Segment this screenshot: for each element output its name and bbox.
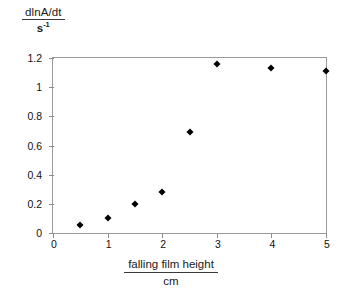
data-point-marker	[268, 65, 275, 72]
x-axis-label: falling film height cm	[0, 258, 342, 289]
y-axis-tick-label: 0	[36, 227, 42, 239]
y-axis-label-numerator: dlnA/dt	[22, 6, 65, 20]
y-axis-tick-label: 1.2	[27, 52, 42, 64]
y-axis-tick-label: 0.2	[27, 198, 42, 210]
y-axis-tick: 1	[49, 87, 54, 88]
x-axis-tick-label: 5	[324, 238, 330, 250]
data-point-marker	[104, 214, 111, 221]
data-point-marker	[322, 68, 329, 75]
plot-frame: 00.20.40.60.811.2012345	[52, 57, 327, 234]
data-point-marker	[159, 189, 166, 196]
data-point-marker	[131, 200, 138, 207]
y-axis-tick: 1.2	[49, 58, 54, 59]
y-axis-tick: 0.6	[49, 146, 54, 147]
x-axis-tick: 3	[217, 233, 218, 238]
y-axis-tick-label: 0.8	[27, 110, 42, 122]
x-axis-tick: 2	[162, 233, 163, 238]
y-axis-tick-label: 0.4	[27, 169, 42, 181]
x-axis-tick: 0	[53, 233, 54, 238]
x-axis-tick-label: 3	[215, 238, 221, 250]
x-axis-tick-label: 1	[106, 238, 112, 250]
y-axis-label: dlnA/dt s-1	[22, 6, 65, 35]
x-axis-label-numerator: falling film height	[124, 258, 218, 273]
y-axis-tick: 0.8	[49, 116, 54, 117]
y-axis-tick: 0.2	[49, 204, 54, 205]
x-axis-tick: 5	[326, 233, 327, 238]
x-axis-tick: 4	[271, 233, 272, 238]
y-axis-unit-exponent: -1	[43, 21, 50, 30]
x-axis-tick-label: 4	[269, 238, 275, 250]
y-axis-label-denominator: s-1	[22, 20, 65, 34]
x-axis-label-denominator: cm	[124, 273, 218, 288]
data-point-marker	[77, 221, 84, 228]
data-point-marker	[186, 129, 193, 136]
scatter-chart-figure: dlnA/dt s-1 00.20.40.60.811.2012345 fall…	[0, 0, 342, 296]
x-axis-tick-label: 2	[160, 238, 166, 250]
y-axis-tick: 0.4	[49, 175, 54, 176]
y-axis-tick-label: 1	[36, 81, 42, 93]
data-point-marker	[213, 60, 220, 67]
x-axis-tick: 1	[108, 233, 109, 238]
plot-area: 00.20.40.60.811.2012345	[53, 58, 326, 233]
y-axis-tick-label: 0.6	[27, 140, 42, 152]
x-axis-tick-label: 0	[51, 238, 57, 250]
